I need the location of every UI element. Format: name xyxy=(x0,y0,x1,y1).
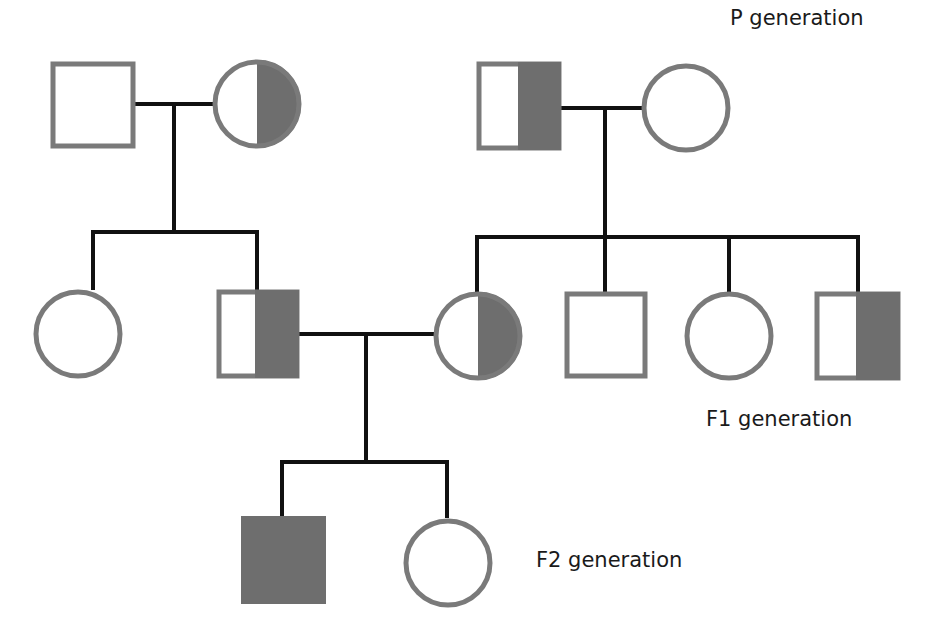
individual-f1-6-carrier-male xyxy=(817,292,900,380)
pedigree-chart: P generation F1 generation F2 generation xyxy=(0,0,946,643)
individual-p4-unaffected-female xyxy=(644,66,728,150)
individual-p2-carrier-female xyxy=(215,60,301,148)
sibship-line-right xyxy=(477,237,858,292)
label-p-generation: P generation xyxy=(730,6,864,30)
individual-p3-carrier-male xyxy=(479,62,561,150)
individual-f2-2-unaffected-female xyxy=(406,521,490,605)
sibship-line-left xyxy=(93,232,257,290)
individual-f2-1-affected-male xyxy=(241,516,326,604)
label-f1-generation: F1 generation xyxy=(706,407,852,431)
individual-f1-2-carrier-male xyxy=(219,290,299,378)
individual-f1-5-unaffected-female xyxy=(687,294,771,378)
individual-f1-1-unaffected-female xyxy=(36,292,120,376)
pedigree-graphic xyxy=(0,0,946,643)
individual-p1-unaffected-male xyxy=(53,64,133,146)
individual-f1-4-unaffected-male xyxy=(567,294,645,376)
label-f2-generation: F2 generation xyxy=(536,548,682,572)
individual-f1-3-carrier-female xyxy=(436,292,522,380)
sibship-line-f2 xyxy=(282,462,447,518)
